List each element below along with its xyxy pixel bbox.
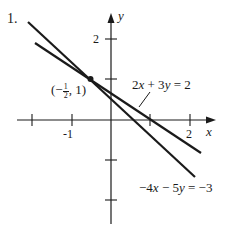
y-axis-label: y bbox=[118, 9, 124, 22]
intersection-point bbox=[88, 76, 94, 82]
x-axis-arrow-icon bbox=[206, 117, 216, 124]
y-tick-label-2: 2 bbox=[93, 33, 99, 45]
eq-part: − 5 bbox=[159, 180, 179, 195]
intersection-label-close: , 1) bbox=[69, 82, 86, 97]
y-axis-arrow-icon bbox=[108, 13, 115, 23]
x-tick-label-2: 2 bbox=[186, 128, 192, 140]
eq-part: = −3 bbox=[185, 180, 213, 195]
equation-label-neg4x-5y: −4x − 5y = −3 bbox=[139, 181, 212, 194]
x-axis-label: x bbox=[206, 125, 212, 138]
eq-part: + 3 bbox=[144, 77, 164, 92]
graph-canvas bbox=[0, 0, 237, 233]
label-leader bbox=[139, 92, 150, 107]
x-tick-label-neg1: -1 bbox=[63, 128, 73, 140]
eq-part: −4 bbox=[139, 180, 153, 195]
intersection-label: (−12, 1) bbox=[51, 83, 86, 100]
eq-part: = 2 bbox=[170, 77, 190, 92]
equation-label-2x-3y: 2x + 3y = 2 bbox=[132, 78, 191, 91]
problem-number: 1. bbox=[7, 12, 18, 26]
intersection-label-open: (− bbox=[51, 82, 63, 97]
